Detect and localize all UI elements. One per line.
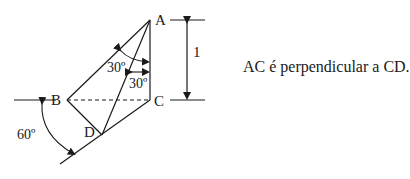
point-label-D: D: [84, 124, 95, 140]
caption-text: AC é perpendicular a CD.: [243, 58, 410, 76]
point-label-B: B: [51, 92, 61, 108]
dimension-label: 1: [193, 44, 201, 60]
angle-arc-60: [42, 103, 74, 154]
angle-label-DAC: 30º: [129, 76, 148, 91]
angle-label-60: 60º: [17, 127, 36, 142]
angle-label-BAD: 30º: [107, 60, 126, 75]
incline-line: [60, 100, 150, 164]
point-label-A: A: [155, 12, 166, 28]
point-label-C: C: [154, 93, 164, 109]
